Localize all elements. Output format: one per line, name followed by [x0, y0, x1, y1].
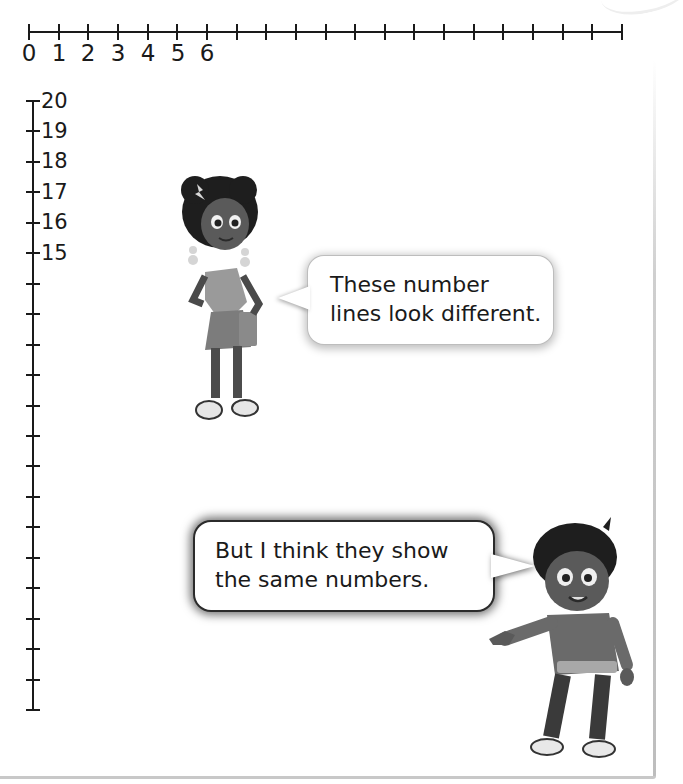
v-tick: [26, 496, 40, 498]
v-tick: [26, 313, 40, 315]
boy-speech-bubble: But I think they show the same numbers.: [195, 522, 493, 610]
v-tick: [26, 587, 40, 589]
h-tick: [265, 24, 267, 40]
h-tick: [621, 24, 623, 40]
h-tick: [502, 24, 504, 40]
boy-speech-line-2: the same numbers.: [215, 565, 493, 594]
v-tick: [26, 557, 40, 559]
horizontal-number-line: 0 1 2 3 4 5 6: [0, 0, 675, 80]
boy-speech-line-1: But I think they show: [215, 536, 493, 565]
h-tick: [58, 24, 60, 40]
h-tick: [443, 24, 445, 40]
v-tick: [26, 222, 40, 224]
v-tick: [26, 252, 40, 254]
h-label-2: 2: [73, 40, 103, 66]
v-tick: [26, 465, 40, 467]
speech-bubble-tail: [278, 286, 310, 310]
v-tick: [26, 405, 40, 407]
h-tick: [87, 24, 89, 40]
h-tick: [413, 24, 415, 40]
h-tick: [206, 24, 208, 40]
v-tick: [26, 100, 40, 102]
v-tick: [26, 618, 40, 620]
h-tick: [28, 24, 30, 40]
v-label-15: 15: [41, 242, 68, 264]
v-tick: [26, 374, 40, 376]
h-tick: [384, 24, 386, 40]
v-tick: [26, 130, 40, 132]
v-label-19: 19: [41, 120, 68, 142]
v-tick: [26, 526, 40, 528]
v-tick: [26, 161, 40, 163]
page-edge-right: [653, 60, 656, 778]
v-tick: [26, 709, 40, 711]
h-tick: [532, 24, 534, 40]
h-tick: [295, 24, 297, 40]
h-tick: [473, 24, 475, 40]
h-tick: [354, 24, 356, 40]
v-label-16: 16: [41, 211, 68, 233]
v-tick: [26, 679, 40, 681]
h-tick: [562, 24, 564, 40]
h-label-4: 4: [133, 40, 163, 66]
h-tick: [117, 24, 119, 40]
h-label-6: 6: [192, 40, 222, 66]
v-label-17: 17: [41, 181, 68, 203]
v-tick: [26, 435, 40, 437]
page-edge-bottom: [0, 776, 656, 779]
girl-speech-line-1: These number: [330, 270, 553, 299]
h-tick: [325, 24, 327, 40]
girl-speech-line-2: lines look different.: [330, 299, 553, 328]
h-tick: [147, 24, 149, 40]
v-tick: [26, 191, 40, 193]
boy-character: [485, 515, 645, 765]
h-label-3: 3: [103, 40, 133, 66]
v-label-18: 18: [41, 150, 68, 172]
girl-character: [175, 172, 270, 427]
v-tick: [26, 648, 40, 650]
v-tick: [26, 344, 40, 346]
girl-speech-bubble: These number lines look different.: [308, 256, 553, 344]
v-label-20: 20: [41, 90, 68, 112]
h-label-1: 1: [44, 40, 74, 66]
v-tick: [26, 283, 40, 285]
h-tick: [236, 24, 238, 40]
h-label-0: 0: [14, 40, 44, 66]
h-label-5: 5: [163, 40, 193, 66]
h-tick: [591, 24, 593, 40]
h-tick: [176, 24, 178, 40]
